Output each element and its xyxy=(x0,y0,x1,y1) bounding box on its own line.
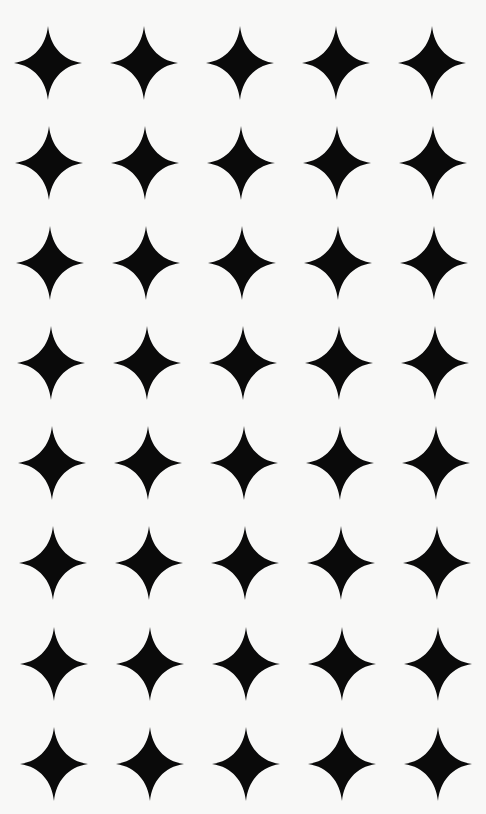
four-point-star-icon xyxy=(401,326,469,400)
four-point-star-icon xyxy=(209,326,277,400)
four-point-star-icon xyxy=(115,526,183,600)
four-point-star-icon xyxy=(19,526,87,600)
four-point-star-icon xyxy=(398,26,466,100)
four-point-star-icon xyxy=(114,426,182,500)
four-point-star-icon xyxy=(305,326,373,400)
four-point-star-icon xyxy=(402,426,470,500)
four-point-star-icon xyxy=(404,627,472,701)
four-point-star-icon xyxy=(403,526,471,600)
four-point-star-icon xyxy=(306,426,374,500)
four-point-star-icon xyxy=(211,526,279,600)
four-point-star-icon xyxy=(16,226,84,300)
four-point-star-icon xyxy=(212,727,280,801)
four-point-star-icon xyxy=(307,526,375,600)
four-point-star-icon xyxy=(15,126,83,200)
four-point-star-icon xyxy=(400,226,468,300)
four-point-star-icon xyxy=(116,627,184,701)
four-point-star-icon xyxy=(20,627,88,701)
four-point-star-icon xyxy=(110,26,178,100)
four-point-star-icon xyxy=(206,26,274,100)
four-point-star-icon xyxy=(308,727,376,801)
four-point-star-icon xyxy=(304,226,372,300)
four-point-star-icon xyxy=(112,226,180,300)
four-point-star-icon xyxy=(207,126,275,200)
four-point-star-icon xyxy=(18,426,86,500)
four-point-star-icon xyxy=(302,26,370,100)
star-pattern-canvas xyxy=(0,0,486,814)
four-point-star-icon xyxy=(116,727,184,801)
four-point-star-icon xyxy=(210,426,278,500)
four-point-star-icon xyxy=(308,627,376,701)
four-point-star-icon xyxy=(113,326,181,400)
four-point-star-icon xyxy=(20,727,88,801)
four-point-star-icon xyxy=(14,26,82,100)
four-point-star-icon xyxy=(17,326,85,400)
four-point-star-icon xyxy=(399,126,467,200)
four-point-star-icon xyxy=(303,126,371,200)
four-point-star-icon xyxy=(208,226,276,300)
four-point-star-icon xyxy=(212,627,280,701)
four-point-star-icon xyxy=(111,126,179,200)
four-point-star-icon xyxy=(404,727,472,801)
